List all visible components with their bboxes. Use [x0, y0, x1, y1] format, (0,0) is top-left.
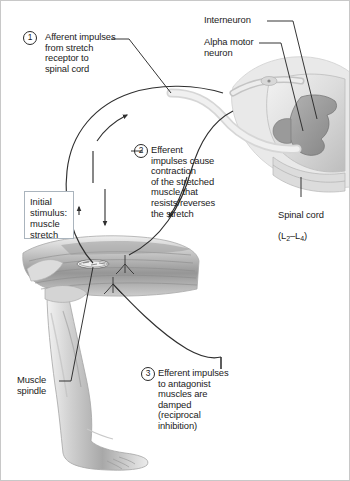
thigh-muscle-illustration [23, 236, 199, 296]
label-spinal-cord-text: Spinal cord [278, 209, 324, 220]
callout-text-1: Afferent impulses from stretch receptor … [45, 32, 135, 74]
label-interneuron: Interneuron [204, 15, 251, 26]
initial-stimulus-box: Initial stimulus: muscle stretch [24, 191, 74, 239]
callout-text-2: Efferent impulses cause contraction of t… [151, 145, 237, 219]
callout-text-3: Efferent impulses to antagonist muscles … [158, 368, 254, 432]
callout-number-1: 1 [23, 31, 37, 45]
label-spinal-cord-segments: (L2–L4) [278, 230, 307, 241]
label-alpha-motor-neuron: Alpha motor neuron [204, 37, 264, 58]
callout-number-3: 3 [141, 367, 155, 381]
label-spinal-cord: Spinal cord (L2–L4) [278, 199, 348, 244]
label-muscle-spindle: Muscle spindle [17, 375, 65, 396]
callout-number-2: 2 [134, 144, 148, 158]
stretch-reflex-figure: 1 Afferent impulses from stretch recepto… [0, 0, 350, 481]
